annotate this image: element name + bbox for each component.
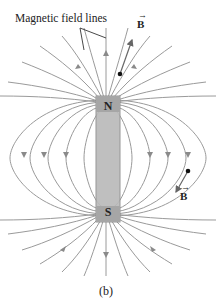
vector-arrow-icon: →: [138, 10, 147, 20]
figure-caption: (b): [99, 284, 113, 299]
bar-magnet: [96, 96, 120, 222]
magnet-field-diagram: N S: [0, 0, 216, 308]
north-pole-label: N: [104, 99, 113, 113]
field-lines-label: Magnetic field lines: [15, 12, 107, 24]
label-leader-lines: [80, 28, 106, 50]
b-vector-label-top: → B: [137, 18, 144, 30]
b-vector-label-right: → B: [180, 190, 187, 202]
south-pole-label: S: [105, 205, 112, 219]
vector-arrow-icon: →: [181, 182, 190, 192]
